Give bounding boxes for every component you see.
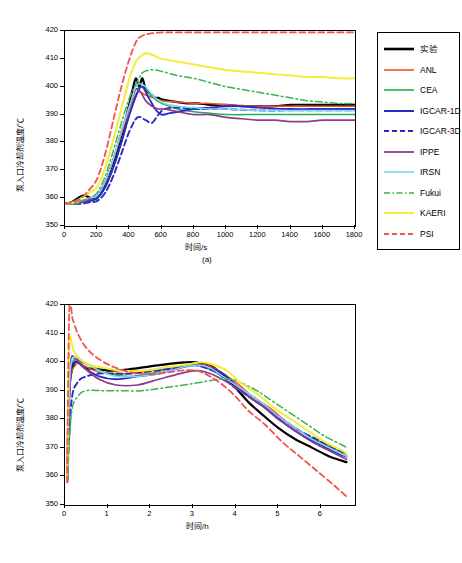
x-tick-label: 1200 — [247, 230, 267, 239]
series-psi — [67, 305, 346, 496]
x-tick-label: 0 — [54, 509, 74, 518]
y-tick-label: 380 — [36, 413, 58, 422]
legend-swatch — [384, 44, 414, 54]
series-canvas-a — [65, 31, 355, 226]
y-tick-label: 360 — [36, 192, 58, 201]
legend-item-irsn: IRSN — [384, 162, 454, 183]
y-tickmark — [60, 333, 64, 334]
legend-label: IPPE — [420, 148, 439, 157]
series-cea — [67, 359, 346, 483]
legend-item-anl: ANL — [384, 60, 454, 81]
legend-swatch — [384, 106, 414, 116]
y-tickmark — [60, 114, 64, 115]
x-tickmark — [64, 225, 65, 229]
y-tickmark — [60, 447, 64, 448]
y-tickmark — [60, 86, 64, 87]
plot-area-b — [64, 304, 356, 506]
legend-label: Fukui — [420, 189, 441, 198]
legend-swatch — [384, 147, 414, 157]
x-tickmark — [235, 504, 236, 508]
y-tick-label: 390 — [36, 385, 58, 394]
legend-box: 实验ANLCEAIGCAR-1DIGCAR-3DIPPEIRSNFukuiKAE… — [377, 32, 460, 250]
x-tick-label: 200 — [86, 230, 106, 239]
legend-swatch — [384, 126, 414, 136]
x-tickmark — [320, 504, 321, 508]
y-tick-label: 420 — [36, 25, 58, 34]
x-tick-label: 2 — [139, 509, 159, 518]
x-tickmark — [277, 504, 278, 508]
series-canvas-b — [65, 305, 355, 505]
x-tick-label: 400 — [118, 230, 138, 239]
legend-item-igcar-1d: IGCAR-1D — [384, 101, 454, 122]
x-axis-label-a: 时间/s — [185, 241, 207, 252]
y-axis-label-b: 泵入口冷却剂温度/℃ — [14, 398, 25, 472]
x-tickmark — [354, 225, 355, 229]
chart-panel-b: 0123456350360370380390400410420 泵入口冷却剂温度… — [0, 292, 380, 562]
legend-item-fukui: Fukui — [384, 183, 454, 204]
legend-label: PSI — [420, 230, 434, 239]
y-tick-label: 410 — [36, 328, 58, 337]
y-tickmark — [60, 141, 64, 142]
legend-item-ippe: IPPE — [384, 142, 454, 163]
series-kaeri — [67, 336, 346, 482]
x-tick-label: 5 — [267, 509, 287, 518]
y-tickmark — [60, 475, 64, 476]
y-tickmark — [60, 504, 64, 505]
series-fukui — [65, 70, 355, 204]
x-tickmark — [64, 504, 65, 508]
x-tick-label: 1600 — [312, 230, 332, 239]
x-tickmark — [290, 225, 291, 229]
legend-label: CEA — [420, 86, 437, 95]
y-tickmark — [60, 361, 64, 362]
x-tickmark — [192, 504, 193, 508]
y-tickmark — [60, 169, 64, 170]
x-tick-label: 3 — [182, 509, 202, 518]
x-tick-label: 1400 — [280, 230, 300, 239]
legend-label: KAERI — [420, 209, 446, 218]
x-tick-label: 0 — [54, 230, 74, 239]
legend-swatch — [384, 167, 414, 177]
plot-area-a — [64, 30, 356, 227]
y-tick-label: 400 — [36, 356, 58, 365]
x-tick-label: 6 — [310, 509, 330, 518]
y-tick-label: 380 — [36, 136, 58, 145]
legend-label: ANL — [420, 66, 437, 75]
x-tickmark — [149, 504, 150, 508]
y-tickmark — [60, 304, 64, 305]
y-tickmark — [60, 197, 64, 198]
x-axis-label-b: 时间/h — [186, 520, 209, 531]
figure-page: 0200400600800100012001400160018003503603… — [0, 0, 462, 563]
legend-swatch — [384, 85, 414, 95]
x-tickmark — [161, 225, 162, 229]
x-tick-label: 800 — [183, 230, 203, 239]
y-tick-label: 350 — [36, 499, 58, 508]
y-axis-label-a: 泵入口冷却剂温度/℃ — [14, 118, 25, 192]
x-tickmark — [225, 225, 226, 229]
legend-item-kaeri: KAERI — [384, 203, 454, 224]
legend-swatch — [384, 208, 414, 218]
y-tick-label: 350 — [36, 220, 58, 229]
x-tickmark — [257, 225, 258, 229]
x-tickmark — [322, 225, 323, 229]
legend-item-psi: PSI — [384, 224, 454, 245]
x-tick-label: 600 — [151, 230, 171, 239]
y-tick-label: 410 — [36, 53, 58, 62]
y-tick-label: 390 — [36, 109, 58, 118]
y-tick-label: 370 — [36, 164, 58, 173]
y-tickmark — [60, 390, 64, 391]
x-tickmark — [96, 225, 97, 229]
y-tickmark — [60, 225, 64, 226]
series-fukui — [67, 379, 346, 482]
x-tick-label: 1800 — [344, 230, 364, 239]
legend-label: 实验 — [420, 45, 438, 54]
y-tickmark — [60, 30, 64, 31]
legend-item-igcar-3d: IGCAR-3D — [384, 121, 454, 142]
legend-label: IRSN — [420, 168, 440, 177]
x-tick-label: 1 — [97, 509, 117, 518]
y-tickmark — [60, 58, 64, 59]
x-tick-label: 4 — [225, 509, 245, 518]
x-tickmark — [193, 225, 194, 229]
legend-swatch — [384, 65, 414, 75]
legend-label: IGCAR-1D — [420, 107, 461, 116]
x-tickmark — [107, 504, 108, 508]
